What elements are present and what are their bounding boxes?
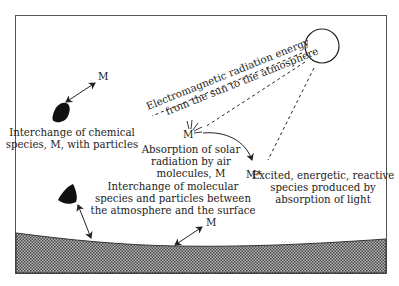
surface-caption-line3: the atmosphere and the surface (91, 205, 256, 216)
excited-caption-line1: Excited, energetic, reactive (252, 170, 395, 181)
surface-caption-line2: species and particles between (95, 193, 251, 204)
absorption-caption-line3: molecules, M (157, 168, 226, 179)
absorption-caption-line1: Absorption of solar (141, 144, 241, 155)
atmospheric-chemistry-diagram: Electromagnetic radiation energy from th… (0, 0, 399, 286)
particle-caption-line2: species, M, with particles (6, 139, 138, 150)
species-m-surface: M (206, 217, 216, 228)
surface-caption-line1: Interchange of molecular (108, 181, 239, 192)
species-m-absorption: M (183, 129, 193, 140)
absorption-caption-line2: radiation by air (151, 156, 231, 167)
particle-caption-line1: Interchange of chemical (9, 127, 135, 138)
excited-caption-line2: species produced by (270, 182, 376, 193)
excited-caption-line3: absorption of light (275, 194, 371, 205)
species-m-top: M (98, 71, 108, 82)
